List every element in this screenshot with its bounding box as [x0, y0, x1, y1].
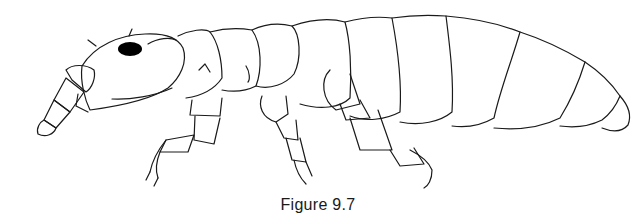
hind-leg [324, 70, 432, 188]
figure-caption: Figure 9.7 [0, 196, 636, 214]
middle-leg [261, 96, 312, 184]
insect-illustration [0, 0, 636, 195]
abdomen [292, 15, 630, 130]
thorax [178, 24, 299, 98]
front-leg [146, 98, 222, 186]
head [82, 29, 185, 110]
eye [118, 42, 142, 56]
